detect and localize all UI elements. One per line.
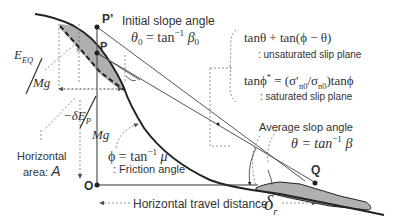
sat-sigma-prime: = (σ′ [271,73,299,88]
x-marker: x [76,46,80,54]
landslide-diagram [0,0,401,224]
beta-subscript: 0 [195,37,200,47]
avg-angle-arc [249,148,256,185]
friction-sup: −1 [147,147,157,157]
dep-denominator: Mg [92,128,109,141]
unsaturated-label: : unsaturated slip plane [258,50,361,60]
tan-text: = tan [142,30,174,45]
initial-slide-mass [60,24,126,90]
horizontal-area-line1: Horizontal [17,151,67,162]
label-point-p-prime: P’ [102,13,113,25]
sat-sigma: /σ [307,73,318,88]
friction-equation: ϕ = tan−1 μ [108,148,168,164]
point-mid [217,123,220,126]
point-q [313,181,318,186]
label-point-p: P [100,41,107,52]
label-point-q: Q [311,164,320,176]
theta-symbol: θ [131,30,138,45]
point-o [95,183,100,188]
sat-tanphi: tanϕ [244,73,267,88]
saturated-label: : saturated slip plane [260,92,352,102]
delta-subscript: r [273,205,277,217]
eeq-numerator: EEQ [14,48,33,64]
saturated-equation: tanϕ* = (σ′n0/σn0)tanϕ [244,73,354,90]
dep-delta-e: −δE [63,108,86,123]
area-symbol: A [51,163,60,179]
avg-theta: θ = tan [291,136,332,151]
travel-distance-symbol: δr [264,193,278,217]
initial-slope-equation: θ0 = tan−1 β0 [131,29,199,48]
label-point-o: O [84,180,93,192]
avg-beta: β [345,136,352,151]
eeq-e: E [14,47,22,62]
eeq-denominator: Mg [33,76,50,89]
horizontal-area-line2: area: A [23,164,60,178]
travel-distance-label: Horizontal travel distance [133,198,268,210]
avg-slope-title: Average slop angle [259,122,353,133]
avg-sup: −1 [332,134,342,144]
dep-subscript: P [86,116,91,126]
initial-slope-title: Initial slope angle [122,15,215,27]
unsaturated-equation: tanθ + tan(ϕ − θ) [244,31,331,44]
inverse-superscript: −1 [174,28,184,38]
dep-numerator: −δEP [63,109,91,125]
delta-symbol: δ [264,192,273,214]
phi-tan: ϕ = tan [108,149,147,164]
sat-end: )tanϕ [326,73,353,88]
friction-label: : Friction angle [113,164,185,175]
avg-slope-equation: θ = tan−1 β [291,135,352,151]
area-text: area: [23,166,51,178]
point-p-prime [95,25,100,30]
beta-symbol: β [188,30,195,45]
point-p [95,51,100,56]
eeq-subscript: EQ [22,55,33,65]
mu-symbol: μ [161,149,168,164]
